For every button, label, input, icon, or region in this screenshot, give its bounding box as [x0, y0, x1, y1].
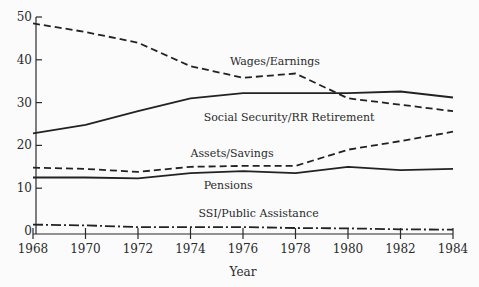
- series-line-pensions: [33, 167, 453, 179]
- x-tick-label: 1974: [175, 242, 206, 256]
- x-tick-label: 1982: [385, 242, 416, 256]
- series-label-ssi-public-assistance: SSI/Public Assistance: [198, 207, 318, 220]
- line-chart: 0102030405019681970197219741976197819801…: [0, 0, 479, 287]
- x-axis-title: Year: [229, 265, 257, 279]
- x-tick-label: 1980: [333, 242, 364, 256]
- x-tick-label: 1972: [123, 242, 154, 256]
- x-tick-label: 1978: [280, 242, 311, 256]
- x-tick-label: 1976: [228, 242, 259, 256]
- series-label-pensions: Pensions: [204, 179, 253, 192]
- y-tick-label: 10: [17, 181, 32, 195]
- y-tick-label: 30: [17, 96, 32, 110]
- series-label-assets-savings: Assets/Savings: [190, 147, 274, 160]
- y-tick-label: 0: [24, 224, 32, 238]
- x-tick-label: 1984: [438, 242, 469, 256]
- series-label-wages-earnings: Wages/Earnings: [230, 55, 320, 68]
- series-label-social-security-rr-retirement: Social Security/RR Retirement: [204, 111, 375, 124]
- y-tick-label: 20: [17, 138, 32, 152]
- series-labels: Wages/EarningsSocial Security/RR Retirem…: [190, 55, 376, 220]
- y-tick-label: 40: [17, 53, 32, 67]
- x-tick-label: 1968: [18, 242, 49, 256]
- y-tick-label: 50: [17, 10, 32, 24]
- x-tick-label: 1970: [70, 242, 101, 256]
